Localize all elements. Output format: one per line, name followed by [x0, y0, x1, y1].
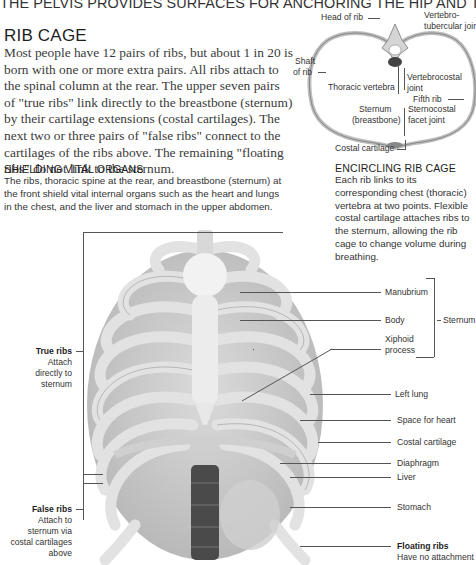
- label-sternum-1: Sternum: [359, 104, 391, 115]
- label-sternum: Sternum: [443, 315, 475, 326]
- label-shaft-2: of rib: [293, 67, 312, 78]
- label-body: Body: [385, 315, 405, 326]
- encircling-heading: ENCIRCLING RIB CAGE: [335, 162, 456, 174]
- label-left-lung: Left lung: [395, 389, 428, 400]
- label-vertebro-tubercular-1: Vertebro-: [424, 10, 459, 21]
- xiphoid-pointer-line: [240, 345, 335, 405]
- label-true-ribs-desc-1: Attach: [0, 357, 72, 368]
- label-xiphoid-2: process: [385, 345, 415, 356]
- label-vertebrocostal-2: joint: [407, 83, 423, 94]
- label-costal-cartilage: Costal cartilage: [397, 437, 456, 448]
- label-thoracic-vertebra: Thoracic vertebra: [328, 82, 395, 93]
- label-space-for-heart: Space for heart: [397, 415, 456, 426]
- shielding-heading: SHIELDING VITAL ORGANS: [4, 163, 143, 175]
- label-false-ribs-title: False ribs: [0, 504, 72, 515]
- section-title: RIB CAGE: [4, 26, 87, 46]
- label-sternocostal-1: Sternocostal: [408, 104, 456, 115]
- label-floating-ribs-desc: Have no attachment: [397, 552, 474, 563]
- label-shaft-1: Shaft: [295, 56, 315, 67]
- label-vertebro-tubercular-2: tubercular joint: [424, 21, 476, 32]
- label-false-ribs-desc-1: Attach to: [0, 515, 72, 526]
- label-head-of-rib: Head of rib: [321, 12, 363, 23]
- shielding-body: The ribs, thoracic spine at the rear, an…: [4, 175, 282, 213]
- label-true-ribs-desc-3: sternum: [0, 379, 72, 390]
- label-costal-cartilage-cross: Costal cartilage: [335, 143, 394, 154]
- section-intro: Most people have 12 pairs of ribs, but a…: [4, 45, 294, 178]
- encircling-body: Each rib links to its corresponding ches…: [335, 174, 475, 264]
- label-manubrium: Manubrium: [385, 287, 428, 298]
- label-false-ribs-desc-3: costal cartilages: [0, 537, 72, 548]
- label-true-ribs-title: True ribs: [0, 346, 72, 357]
- label-stomach: Stomach: [397, 502, 431, 513]
- label-false-ribs-desc-2: sternum via: [0, 526, 72, 537]
- label-floating-ribs-title: Floating ribs: [397, 541, 449, 552]
- label-true-ribs-desc-2: directly to: [0, 368, 72, 379]
- label-diaphragm: Diaphragm: [397, 458, 439, 469]
- label-fifth-rib: Fifth rib: [413, 94, 442, 105]
- label-xiphoid-1: Xiphoid: [385, 334, 414, 345]
- label-sternocostal-2: facet joint: [408, 115, 445, 126]
- label-liver: Liver: [397, 472, 416, 483]
- label-sternum-2: (breastbone): [352, 115, 401, 126]
- label-vertebrocostal-1: Vertebrocostal: [407, 72, 462, 83]
- label-false-ribs-desc-4: above: [0, 548, 72, 559]
